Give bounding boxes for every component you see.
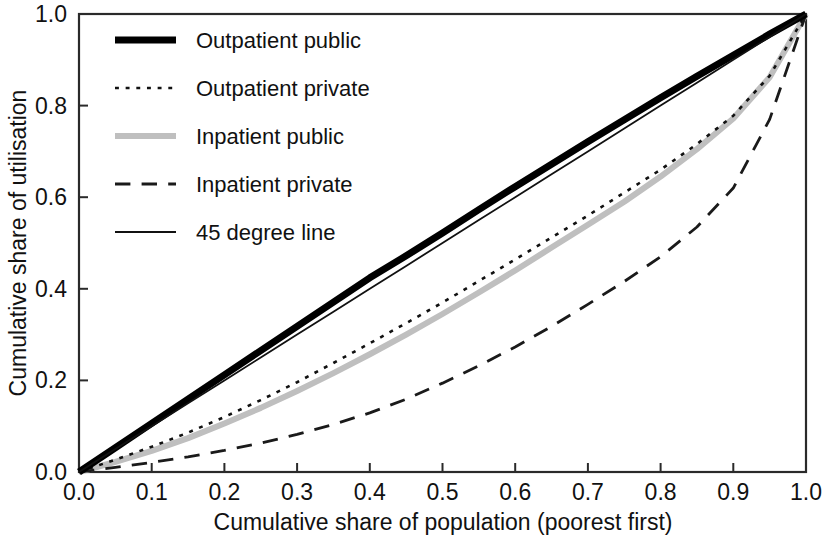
lorenz-curve-figure: 0.00.10.20.30.40.50.60.70.80.91.0 0.00.2… xyxy=(0,0,832,539)
y-tick-label-3: 0.6 xyxy=(35,184,67,210)
x-tick-label-8: 0.8 xyxy=(645,479,677,505)
x-tick-label-2: 0.2 xyxy=(208,479,240,505)
x-tick-label-7: 0.7 xyxy=(572,479,604,505)
x-tick-label-0: 0.0 xyxy=(63,479,95,505)
x-axis-title: Cumulative share of population (poorest … xyxy=(214,509,673,535)
y-tick-label-1: 0.2 xyxy=(35,367,67,393)
y-tick-label-0: 0.0 xyxy=(35,459,67,485)
x-tick-label-3: 0.3 xyxy=(281,479,313,505)
legend-label-4: 45 degree line xyxy=(196,220,335,245)
x-tick-label-5: 0.5 xyxy=(427,479,459,505)
concentration-curve-chart: 0.00.10.20.30.40.50.60.70.80.91.0 0.00.2… xyxy=(0,0,832,539)
y-tick-label-4: 0.8 xyxy=(35,93,67,119)
x-tick-label-4: 0.4 xyxy=(354,479,386,505)
y-tick-label-2: 0.4 xyxy=(35,276,67,302)
legend-label-3: Inpatient private xyxy=(196,172,353,197)
x-tick-label-10: 1.0 xyxy=(790,479,822,505)
legend-label-0: Outpatient public xyxy=(196,28,361,53)
y-tick-label-5: 1.0 xyxy=(35,1,67,27)
x-tick-label-1: 0.1 xyxy=(136,479,168,505)
legend-label-1: Outpatient private xyxy=(196,76,370,101)
x-tick-label-9: 0.9 xyxy=(717,479,749,505)
y-axis-title: Cumulative share of utilisation xyxy=(5,90,31,397)
x-tick-label-6: 0.6 xyxy=(499,479,531,505)
legend-label-2: Inpatient public xyxy=(196,124,344,149)
